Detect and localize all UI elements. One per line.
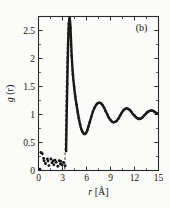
data-point [41, 152, 44, 155]
data-point [59, 160, 62, 163]
data-point [38, 168, 41, 171]
y-tick-label: 2.5 [23, 26, 35, 36]
data-point [47, 160, 50, 163]
data-point [56, 165, 59, 168]
y-tick-label: 1 [30, 110, 35, 120]
data-point [49, 158, 52, 161]
figure-panel: 03691215 00.511.522.5 r [Å] g (r) (b) [0, 0, 170, 208]
x-tick-label: 0 [36, 173, 41, 183]
data-point [55, 161, 58, 164]
data-point [52, 163, 55, 166]
y-tick-label: 1.5 [23, 82, 35, 92]
x-axis-title: r [Å] [88, 186, 108, 197]
panel-label: (b) [136, 22, 148, 34]
y-axis-title: g (r) [4, 85, 16, 103]
y-tick-label: 2 [30, 54, 35, 64]
data-point [64, 164, 67, 167]
x-tick-label: 12 [130, 173, 140, 183]
data-point [62, 161, 65, 164]
x-tick-label: 9 [108, 173, 113, 183]
data-point [61, 164, 64, 167]
x-tick-label: 6 [84, 173, 89, 183]
y-tick-label: 0 [30, 166, 35, 176]
data-point [47, 164, 50, 167]
svg-text:g (r): g (r) [4, 85, 16, 103]
y-tick-label: 0.5 [23, 138, 35, 148]
x-tick-label: 3 [60, 173, 65, 183]
x-tick-label: 15 [154, 173, 164, 183]
data-point [43, 159, 46, 162]
data-point [44, 162, 47, 165]
radial-distribution-chart: 03691215 00.511.522.5 r [Å] g (r) (b) [0, 0, 170, 208]
